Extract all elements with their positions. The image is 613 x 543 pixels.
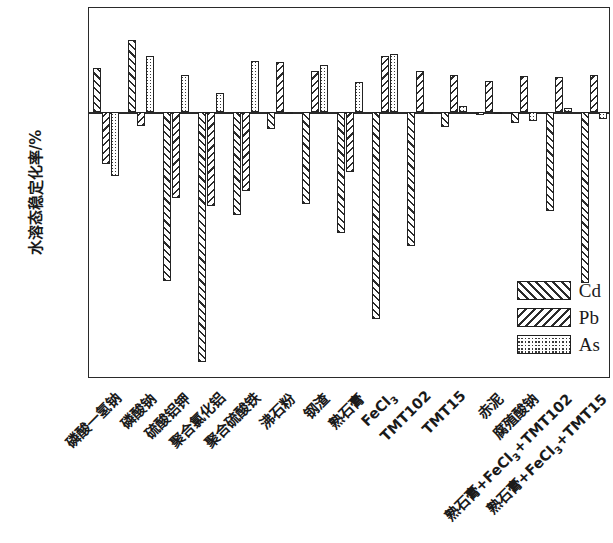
x-tick-minor xyxy=(176,377,177,378)
bar-cd-11 xyxy=(476,112,484,115)
x-tick-label-10: TMT15 xyxy=(419,388,469,438)
bar-as-8 xyxy=(390,54,398,112)
bar-cd-2 xyxy=(163,112,171,281)
bar-pb-1 xyxy=(137,112,145,126)
x-tick-label-0: 磷酸一氢钠 xyxy=(60,388,124,452)
x-tick-label-8: FeCl3 xyxy=(358,388,401,431)
x-tick-minor xyxy=(315,377,316,378)
bar-cd-6 xyxy=(302,112,310,204)
x-tick-label-6: 钢渣 xyxy=(298,388,333,423)
legend-label-pb: Pb xyxy=(579,308,599,327)
x-tick-label-7: 熟石膏 xyxy=(323,388,368,433)
x-tick xyxy=(124,377,125,378)
bar-pb-9 xyxy=(416,71,424,113)
y-tick-minor xyxy=(88,216,89,217)
bar-pb-2 xyxy=(172,112,180,198)
x-tick-minor xyxy=(489,377,490,378)
y-tick xyxy=(88,362,89,363)
y-tick-minor xyxy=(88,341,89,342)
bar-pb-0 xyxy=(102,112,110,164)
x-tick-minor xyxy=(141,377,142,378)
bar-as-0 xyxy=(111,112,119,175)
x-tick-label-5: 沸石粉 xyxy=(254,388,299,433)
x-tick xyxy=(333,377,334,378)
x-tick xyxy=(402,377,403,378)
bar-pb-12 xyxy=(520,76,528,112)
y-tick xyxy=(88,279,89,280)
bar-cd-13 xyxy=(546,112,554,210)
y-axis-label: 水溶态稳定化率/% xyxy=(24,63,45,323)
x-tick xyxy=(193,377,194,378)
bar-as-1 xyxy=(146,56,154,112)
bar-cd-7 xyxy=(337,112,345,233)
y-tick xyxy=(88,321,89,322)
y-tick-minor xyxy=(88,175,89,176)
bar-pb-7 xyxy=(346,112,354,172)
bar-cd-10 xyxy=(441,112,449,127)
x-tick-label-12: 腐殖酸钠 xyxy=(487,388,541,442)
x-tick-minor xyxy=(420,377,421,378)
bar-as-2 xyxy=(181,75,189,113)
bar-cd-8 xyxy=(372,112,380,319)
bar-as-13 xyxy=(564,108,572,112)
y-tick-minor xyxy=(88,300,89,301)
bar-pb-10 xyxy=(450,75,458,113)
x-tick xyxy=(507,377,508,378)
bar-as-14 xyxy=(599,112,607,119)
bar-as-10 xyxy=(459,106,467,113)
x-tick-minor xyxy=(246,377,247,378)
bar-pb-13 xyxy=(555,77,563,112)
y-tick xyxy=(88,112,89,113)
x-tick xyxy=(437,377,438,378)
y-tick xyxy=(88,29,89,30)
bar-pb-4 xyxy=(242,112,250,191)
bar-as-6 xyxy=(320,65,328,113)
y-tick-minor xyxy=(88,50,89,51)
legend: CdPbAs xyxy=(515,276,603,361)
bar-as-5 xyxy=(285,112,293,114)
bar-cd-14 xyxy=(581,112,589,283)
legend-swatch-as-icon xyxy=(517,335,571,354)
legend-item-as[interactable]: As xyxy=(517,332,601,356)
y-tick xyxy=(88,237,89,238)
bar-as-9 xyxy=(425,112,433,114)
y-tick-minor xyxy=(88,133,89,134)
x-tick xyxy=(576,377,577,378)
x-tick xyxy=(472,377,473,378)
bar-as-3 xyxy=(216,93,224,112)
bar-cd-9 xyxy=(407,112,415,245)
legend-swatch-cd-icon xyxy=(517,281,571,300)
legend-item-cd[interactable]: Cd xyxy=(517,278,601,302)
x-tick xyxy=(228,377,229,378)
bar-as-7 xyxy=(355,82,363,112)
x-tick-minor xyxy=(559,377,560,378)
x-tick xyxy=(89,377,90,378)
bar-pb-6 xyxy=(311,71,319,113)
bar-as-4 xyxy=(251,61,259,112)
x-tick-label-1: 磷酸钠 xyxy=(115,388,160,433)
x-tick-label-13: 熟石膏+FeCl3+TMT102 xyxy=(439,388,577,526)
y-tick-minor xyxy=(88,258,89,259)
y-tick xyxy=(88,196,89,197)
bar-cd-1 xyxy=(128,40,136,113)
x-tick-minor xyxy=(385,377,386,378)
x-tick-label-14: 熟石膏+FeCl3+TMT15 xyxy=(481,388,612,519)
y-tick xyxy=(88,71,89,72)
x-tick-minor xyxy=(211,377,212,378)
bar-as-12 xyxy=(529,112,537,120)
y-tick-minor xyxy=(88,91,89,92)
bar-pb-5 xyxy=(276,62,284,112)
x-tick xyxy=(298,377,299,378)
legend-item-pb[interactable]: Pb xyxy=(517,305,601,329)
x-tick-minor xyxy=(350,377,351,378)
legend-label-cd: Cd xyxy=(579,281,601,300)
legend-label-as: As xyxy=(579,335,600,354)
x-tick-minor xyxy=(524,377,525,378)
x-tick xyxy=(541,377,542,378)
x-tick xyxy=(263,377,264,378)
x-tick-label-3: 聚合氯化铝 xyxy=(164,388,228,452)
x-tick-minor xyxy=(106,377,107,378)
bar-pb-8 xyxy=(381,56,389,113)
chart-figure: 水溶态稳定化率/% 100500−50−100−150−200−250−300 … xyxy=(0,0,613,543)
bar-pb-14 xyxy=(590,75,598,113)
